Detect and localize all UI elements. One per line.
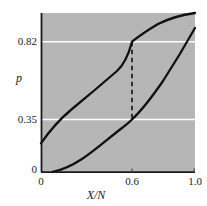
y-tick-label-0: 0 xyxy=(2,164,37,175)
y-axis-label: p xyxy=(16,72,22,84)
plot-background xyxy=(41,13,195,172)
chart-figure: 0.82 0.35 0 p 0 0.6 1.0 X/N xyxy=(0,0,207,206)
x-axis-label: X/N xyxy=(87,189,106,201)
y-tick-label-0.35: 0.35 xyxy=(2,114,37,125)
x-tick-label-0.6: 0.6 xyxy=(122,176,142,187)
x-tick-label-1.0: 1.0 xyxy=(184,176,206,187)
y-tick-label-0.82: 0.82 xyxy=(2,36,37,47)
x-tick-label-0: 0 xyxy=(31,176,51,187)
